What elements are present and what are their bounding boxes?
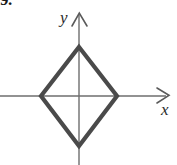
x-axis xyxy=(0,88,169,103)
coordinate-plot xyxy=(0,0,177,165)
x-axis-label: x xyxy=(161,101,169,118)
y-axis-label: y xyxy=(60,9,68,26)
figure-container: 9. y x xyxy=(0,0,177,165)
